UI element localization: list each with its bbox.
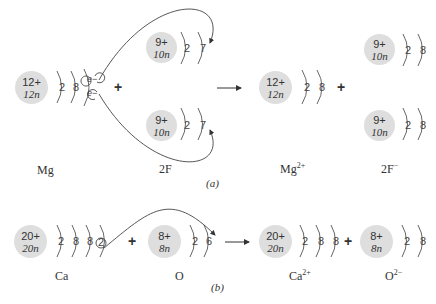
o-ion-shell-2: 8: [420, 235, 426, 247]
o-nucleus: 8+ 8n: [148, 225, 181, 258]
proton-count: 12+: [22, 76, 41, 88]
ion-charge: 2−: [394, 268, 403, 277]
o-shell-1: 2: [192, 235, 198, 247]
neutron-count: 20n: [267, 242, 284, 254]
f-shell-1: 2: [184, 119, 190, 131]
plus-sign: +: [344, 233, 352, 249]
label-ca-ion: Ca2+: [289, 268, 311, 284]
ion-charge: 2+: [297, 161, 306, 170]
f-nucleus-top: 9+ 10n: [146, 32, 177, 63]
label-2f: 2F: [159, 162, 172, 177]
ion-symbol: 2F: [381, 162, 394, 176]
f-shell-2: 7: [200, 42, 206, 54]
mg-shell-2: 8: [73, 81, 79, 93]
proton-count: 20+: [266, 230, 285, 242]
label-ca: Ca: [55, 269, 68, 284]
f-ion-shell-1: 2: [405, 119, 411, 131]
mg-electron-1: e−: [87, 74, 97, 84]
ca-ion-shell-3: 8: [333, 235, 339, 247]
ion-charge: 2+: [302, 268, 311, 277]
label-o: O: [175, 269, 184, 284]
neutron-count: 12n: [23, 88, 40, 100]
f-shell-2: 7: [200, 119, 206, 131]
proton-count: 9+: [373, 38, 386, 50]
ion-charge: −: [394, 161, 399, 170]
proton-count: 9+: [373, 114, 386, 126]
ion-symbol: Ca: [289, 269, 302, 283]
proton-count: 8+: [158, 230, 171, 242]
neutron-count: 8n: [159, 242, 170, 254]
ca-nucleus: 20+ 20n: [14, 225, 47, 258]
mg-shell-1: 2: [59, 81, 65, 93]
proton-count: 9+: [155, 36, 168, 48]
plus-sign: +: [337, 79, 345, 95]
f-shell-1: 2: [184, 42, 190, 54]
caption-a: (a): [206, 177, 219, 189]
mg-electron-2: e−: [87, 88, 97, 98]
plus-sign: +: [128, 233, 136, 249]
neutron-count: 8n: [371, 242, 382, 254]
plus-sign: +: [114, 79, 122, 95]
label-o-ion: O2−: [385, 268, 402, 284]
neutron-count: 12n: [267, 88, 284, 100]
proton-count: 8+: [370, 230, 383, 242]
neutron-count: 10n: [371, 50, 388, 62]
ca-shell-3: 8: [87, 235, 93, 247]
label-mg-ion: Mg2+: [280, 161, 305, 177]
neutron-count: 10n: [371, 126, 388, 138]
ion-symbol: O: [385, 269, 394, 283]
f-ion-shell-1: 2: [405, 44, 411, 56]
label-mg: Mg: [37, 163, 54, 178]
mg-ion-nucleus: 12+ 12n: [259, 71, 292, 104]
f-nucleus-bottom: 9+ 10n: [146, 110, 177, 141]
ca-ion-nucleus: 20+ 20n: [259, 225, 292, 258]
caption-b: (b): [211, 281, 224, 293]
f-ion-shell-2: 8: [420, 44, 426, 56]
mg-ion-shell-2: 8: [319, 81, 325, 93]
neutron-count: 10n: [153, 48, 170, 60]
neutron-count: 10n: [153, 126, 170, 138]
proton-count: 9+: [155, 114, 168, 126]
ion-symbol: Mg: [280, 162, 297, 176]
proton-count: 20+: [21, 230, 40, 242]
ca-ion-shell-1: 2: [302, 235, 308, 247]
label-f-ion: 2F−: [381, 161, 398, 177]
o-shell-2: 6: [206, 235, 212, 247]
mg-ion-shell-1: 2: [304, 81, 310, 93]
ca-shell-1: 2: [58, 235, 64, 247]
proton-count: 12+: [266, 76, 285, 88]
mg-nucleus: 12+ 12n: [15, 71, 48, 104]
o-ion-shell-1: 2: [404, 235, 410, 247]
f-ion-nucleus-bottom: 9+ 10n: [364, 110, 395, 141]
shell-arcs: [57, 32, 423, 257]
o-ion-nucleus: 8+ 8n: [360, 225, 393, 258]
ca-shell-2: 8: [73, 235, 79, 247]
ca-shell-4: 2: [98, 236, 104, 248]
reaction-arrows: [217, 88, 249, 242]
f-ion-shell-2: 8: [420, 119, 426, 131]
neutron-count: 20n: [22, 242, 39, 254]
ca-ion-shell-2: 8: [318, 235, 324, 247]
f-ion-nucleus-top: 9+ 10n: [364, 34, 395, 65]
